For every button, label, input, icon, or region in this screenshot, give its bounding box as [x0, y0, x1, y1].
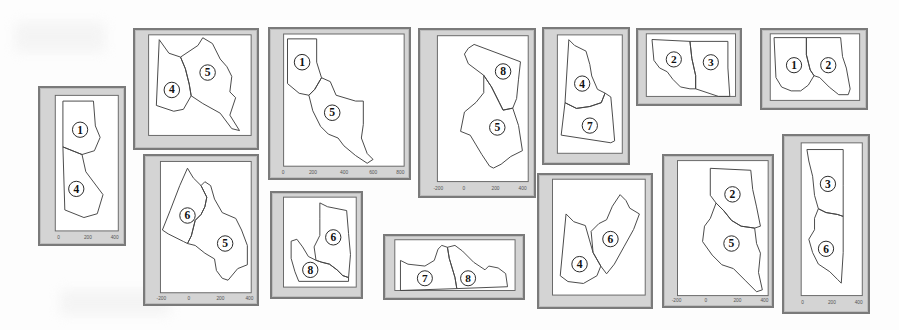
plot-canvas: 6 5 -200 0 200 400: [145, 156, 257, 304]
region-label: 3: [708, 56, 714, 68]
region-label: 6: [330, 231, 336, 243]
plot-panel-4-6: 4 6: [537, 173, 653, 309]
region-label: 1: [77, 124, 83, 136]
plot-panel-1-5: 1 5 0 200 400 600 800: [268, 27, 411, 180]
region-label: 3: [825, 178, 831, 190]
region-label: 6: [185, 209, 191, 222]
plot-panel-6-5: 6 5 -200 0 200 400: [143, 154, 259, 306]
plot-panel-1-2: 1 2: [760, 28, 868, 110]
region-label: 5: [494, 121, 500, 134]
x-tick: 400: [519, 186, 527, 191]
plot-panel-6-8: 6 8: [270, 191, 363, 299]
plot-canvas: 2 5 -200 0 200 400: [664, 156, 772, 306]
x-tick: 800: [396, 170, 404, 175]
plot-canvas: 1 2: [762, 30, 866, 108]
plot-area: [55, 95, 118, 231]
plot-panel-2-3: 2 3: [636, 28, 742, 106]
x-tick: 200: [491, 186, 499, 191]
x-tick: 400: [760, 298, 768, 303]
region-label: 1: [299, 56, 305, 69]
region-label: 8: [307, 264, 313, 276]
region-label: 4: [169, 83, 175, 96]
region-label: 8: [500, 65, 506, 78]
region-label: 6: [608, 233, 614, 246]
plot-panel-8-5: 8 5 -200 0 200 400: [418, 28, 536, 198]
plot-area: [646, 34, 735, 97]
x-tick: 600: [369, 170, 377, 175]
region-label: 4: [579, 78, 585, 90]
plot-panel-1-4: 1 4 0 200 400: [38, 86, 126, 246]
plot-panel-3-6: 3 6 0 200 400: [782, 134, 870, 314]
region-label: 7: [587, 120, 593, 132]
x-tick: 200: [309, 170, 317, 175]
plot-canvas: 2 3: [638, 30, 740, 104]
x-tick: -200: [157, 296, 167, 301]
region-label: 5: [222, 237, 228, 250]
region-label: 4: [73, 183, 79, 195]
plot-canvas: 4 6: [539, 175, 651, 307]
x-tick: 0: [463, 186, 466, 191]
x-tick: 400: [340, 170, 348, 175]
plot-canvas: 1 5 0 200 400 600 800: [270, 29, 409, 178]
region-label: 5: [205, 66, 211, 79]
region-label: 1: [791, 59, 797, 71]
x-tick: 200: [828, 300, 836, 305]
x-tick: 0: [57, 235, 60, 240]
plot-area: [437, 36, 528, 182]
x-tick: 400: [855, 300, 863, 305]
plot-area: [160, 161, 251, 292]
region-label: 7: [422, 272, 428, 284]
x-tick: 0: [801, 300, 804, 305]
plot-panel-2-5: 2 5 -200 0 200 400: [662, 154, 774, 308]
x-tick: 0: [282, 170, 285, 175]
x-tick: 400: [111, 235, 119, 240]
plot-canvas: 6 8: [272, 193, 361, 297]
x-tick: 200: [733, 298, 741, 303]
plot-canvas: 8 5 -200 0 200 400: [420, 30, 534, 196]
plot-canvas: 1 4 0 200 400: [40, 88, 124, 244]
x-tick: 0: [705, 298, 708, 303]
x-tick: -200: [434, 186, 444, 191]
x-tick: 200: [84, 235, 92, 240]
region-label: 5: [329, 106, 335, 119]
region-label: 2: [671, 53, 677, 65]
plot-canvas: 3 6 0 200 400: [784, 136, 868, 312]
plot-panel-7-8: 7 8: [383, 234, 525, 300]
region-label: 4: [577, 258, 583, 271]
plot-panel-4-7: 4 7: [542, 27, 630, 165]
x-tick: 0: [187, 296, 190, 301]
plot-canvas: 4 5: [135, 30, 257, 148]
region-label: 8: [465, 272, 471, 284]
plot-area: [149, 35, 252, 136]
region-label: 6: [823, 243, 829, 255]
plot-area: [557, 35, 622, 153]
x-tick: -200: [672, 298, 682, 303]
region-label: 2: [730, 188, 736, 201]
plot-panel-4-5: 4 5: [133, 28, 259, 150]
plot-area: [553, 179, 646, 295]
x-tick: 400: [245, 296, 253, 301]
plot-canvas: 4 7: [544, 29, 628, 163]
x-tick: 200: [216, 296, 224, 301]
plot-canvas: 7 8: [385, 236, 523, 298]
region-label: 5: [729, 237, 735, 250]
region-label: 2: [825, 59, 831, 71]
